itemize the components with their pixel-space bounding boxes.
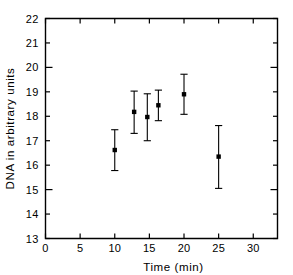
x-axis-ticks — [46, 19, 254, 239]
data-point-2 — [131, 91, 138, 133]
marker-square — [113, 148, 117, 152]
x-tick-label-30: 30 — [247, 242, 260, 254]
x-axis-title: Time (min) — [143, 261, 204, 273]
x-tick-label-10: 10 — [108, 242, 121, 254]
x-tick-label-0: 0 — [42, 242, 48, 254]
y-tick-label-20: 20 — [26, 61, 39, 73]
data-point-5 — [180, 74, 187, 114]
data-point-1 — [111, 130, 118, 171]
x-axis-tick-labels: 051015202530 — [42, 242, 259, 254]
y-tick-label-16: 16 — [26, 159, 39, 171]
x-tick-label-20: 20 — [178, 242, 191, 254]
y-tick-label-13: 13 — [26, 233, 39, 245]
x-tick-label-15: 15 — [143, 242, 156, 254]
marker-square — [132, 110, 136, 114]
y-tick-label-18: 18 — [26, 110, 39, 122]
y-tick-label-21: 21 — [26, 37, 39, 49]
marker-square — [145, 115, 149, 119]
y-tick-label-17: 17 — [26, 135, 39, 147]
marker-square — [182, 92, 186, 96]
x-tick-label-25: 25 — [212, 242, 225, 254]
y-axis-ticks — [46, 19, 278, 239]
data-series-dna — [111, 74, 222, 188]
y-tick-label-15: 15 — [26, 184, 39, 196]
y-axis-tick-labels: 13141516171819202122 — [26, 13, 39, 245]
y-axis-title: DNA in arbitrary units — [4, 68, 16, 190]
data-point-3 — [144, 94, 151, 141]
y-tick-label-19: 19 — [26, 86, 39, 98]
marker-square — [156, 103, 160, 107]
marker-square — [216, 154, 220, 158]
data-point-4 — [155, 90, 162, 121]
chart-figure: 051015202530 13141516171819202122 Time (… — [0, 0, 293, 275]
plot-frame — [46, 19, 278, 239]
scatter-plot: 051015202530 13141516171819202122 Time (… — [0, 0, 293, 275]
y-tick-label-22: 22 — [26, 13, 39, 25]
data-point-6 — [215, 126, 222, 189]
y-tick-label-14: 14 — [26, 208, 39, 220]
x-tick-label-5: 5 — [77, 242, 83, 254]
